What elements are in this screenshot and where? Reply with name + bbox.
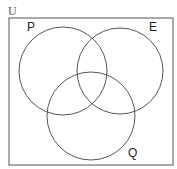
- set-e-circle: [77, 28, 163, 114]
- universe-rectangle: [9, 18, 173, 165]
- set-q-label: Q: [128, 146, 137, 160]
- universe-label: U: [8, 4, 17, 18]
- venn-diagram: U P E Q: [0, 0, 177, 169]
- set-p-circle: [19, 27, 107, 115]
- set-e-label: E: [149, 20, 157, 34]
- set-q-circle: [47, 72, 135, 160]
- set-p-label: P: [27, 20, 35, 34]
